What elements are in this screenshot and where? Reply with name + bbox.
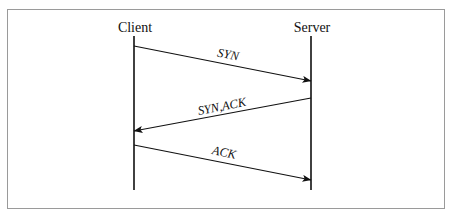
participant-label-server: Server — [294, 20, 331, 36]
participant-label-client: Client — [118, 20, 152, 36]
sequence-diagram-screenshot: Client Server SYN SYN,ACK ACK — [0, 0, 456, 218]
